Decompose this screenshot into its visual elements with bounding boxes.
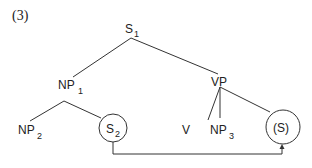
edge-vp-v: [208, 87, 220, 120]
node-vp: VP: [211, 75, 227, 89]
edge-s1-np1: [73, 38, 131, 77]
node-s1: S 1: [125, 22, 139, 39]
svg-text:S: S: [125, 22, 133, 36]
svg-text:1: 1: [134, 29, 139, 39]
node-v: V: [182, 123, 190, 137]
syntax-tree-diagram: (3) S 1 NP 1 VP NP 2 S 2 V NP 3: [0, 0, 312, 168]
movement-arrow: [113, 142, 285, 154]
edge-np1-s2: [64, 101, 101, 118]
svg-text:(S): (S): [273, 121, 289, 135]
svg-text:NP: NP: [58, 78, 75, 92]
svg-text:NP: NP: [18, 123, 35, 137]
svg-text:1: 1: [78, 86, 83, 96]
svg-text:NP: NP: [210, 123, 227, 137]
svg-text:2: 2: [115, 129, 120, 139]
node-s2: S 2: [99, 114, 127, 142]
svg-text:VP: VP: [211, 75, 227, 89]
node-np2: NP 2: [18, 123, 42, 141]
svg-text:3: 3: [229, 131, 234, 141]
svg-text:V: V: [182, 123, 190, 137]
node-np1: NP 1: [58, 78, 83, 96]
svg-text:S: S: [106, 122, 114, 136]
node-s-target: (S): [266, 110, 300, 144]
figure-number: (3): [12, 8, 29, 24]
edge-vp-s: [220, 87, 270, 112]
edge-s1-vp: [131, 38, 218, 74]
svg-text:2: 2: [37, 131, 42, 141]
edge-np1-np2: [30, 101, 64, 121]
node-np3: NP 3: [210, 123, 234, 141]
arrow-path: [113, 142, 282, 154]
arrowhead-icon: [280, 144, 285, 149]
